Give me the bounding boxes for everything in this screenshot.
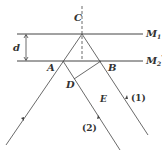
label-d-point: D	[65, 79, 75, 90]
label-distance-d: d	[13, 42, 20, 53]
interference-diagram: C A B D E d M1 M2′ (1) (2)	[0, 0, 162, 159]
label-a: A	[46, 62, 55, 73]
label-ray-1: (1)	[131, 93, 146, 103]
label-m1: M1	[145, 28, 161, 40]
label-b: B	[107, 62, 116, 73]
arrow-ray1-icon	[125, 95, 128, 99]
b-d-line	[74, 61, 101, 79]
label-ray-2: (2)	[82, 123, 97, 133]
label-c: C	[74, 12, 82, 23]
label-e: E	[99, 94, 107, 104]
ray-2-line	[63, 61, 120, 150]
ray-c-b	[82, 34, 148, 135]
label-m2-prime: M2′	[145, 53, 162, 67]
